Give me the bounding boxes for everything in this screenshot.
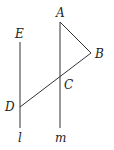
point-label-e: E bbox=[14, 27, 24, 41]
point-label-b: B bbox=[94, 47, 104, 61]
point-label-c: C bbox=[64, 78, 73, 92]
segment-ab bbox=[60, 22, 91, 53]
point-label-a: A bbox=[55, 6, 65, 20]
point-label-d: D bbox=[4, 100, 15, 114]
line-label-l: l bbox=[18, 131, 22, 145]
line-label-m: m bbox=[55, 131, 66, 145]
segment-bd bbox=[20, 53, 91, 107]
geometry-diagram: A B C D E l m bbox=[0, 0, 114, 150]
